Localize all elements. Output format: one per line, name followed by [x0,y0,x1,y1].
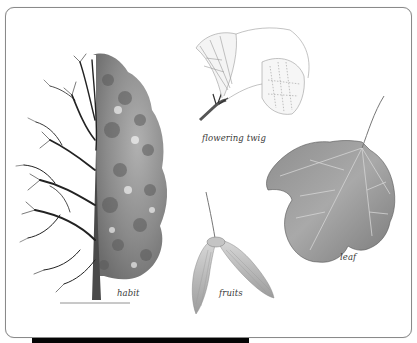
label-flowering-twig: flowering twig [202,133,266,143]
fruit-stalk [206,192,215,238]
label-leaf: leaf [340,252,356,262]
label-fruits: fruits [219,288,243,298]
label-habit: habit [117,288,140,298]
bottom-black-bar [32,338,249,343]
canopy-foliage [93,54,167,280]
samara-wing-left [192,240,216,314]
flowering-twig-illustration [196,28,309,120]
samara-seeds [207,237,225,247]
illustration-canvas [0,0,417,343]
leaf-stalk [362,96,384,148]
leaf-illustration [266,96,394,262]
tree-habit-illustration [16,54,167,303]
bare-branches [16,54,97,292]
